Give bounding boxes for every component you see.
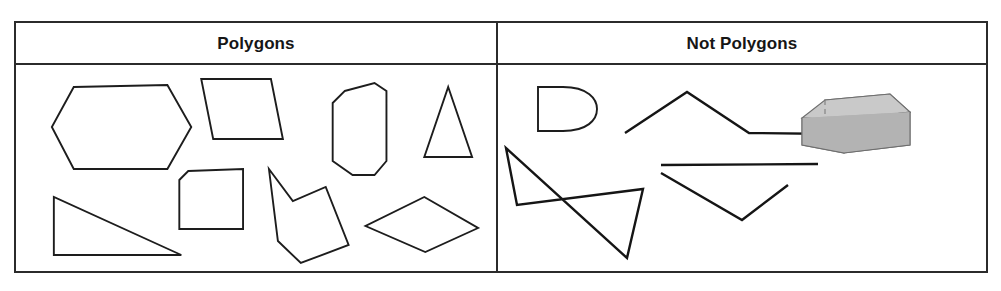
shape-octagon (333, 83, 387, 175)
shape-open-v-with-line (661, 164, 818, 165)
polygons-shape-group (16, 65, 496, 271)
polygons-classification-table: Polygons Not Polygons (14, 21, 988, 273)
body-cell-polygons (16, 65, 498, 271)
shape-concave-hexagon (269, 169, 349, 263)
header-label-not-polygons: Not Polygons (687, 35, 798, 52)
table-header-row: Polygons Not Polygons (16, 23, 986, 65)
body-cell-not-polygons (498, 65, 986, 271)
shape-cut-corner-square (179, 169, 243, 229)
shape-d-shape-curved (538, 87, 597, 131)
shape-rhombus (366, 197, 479, 252)
header-cell-not-polygons: Not Polygons (498, 23, 986, 63)
header-cell-polygons: Polygons (16, 23, 498, 63)
not-polygons-shape-group (498, 65, 986, 271)
polygons-comparison-page: Polygons Not Polygons (0, 0, 1001, 291)
shape-hexagon (52, 85, 191, 169)
shape-triangle (424, 87, 472, 157)
shape-self-intersecting-quadrilateral (506, 148, 643, 258)
shape-open-v-angle (661, 173, 788, 220)
header-label-polygons: Polygons (217, 35, 294, 52)
table-body-row (16, 65, 986, 271)
shape-right-triangle (54, 197, 181, 255)
shape-three-dimensional-box (802, 94, 910, 153)
shape-trapezoid (201, 79, 283, 139)
